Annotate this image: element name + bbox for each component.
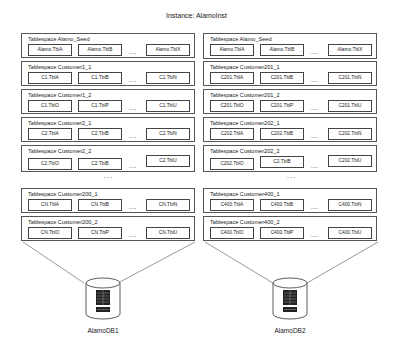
- database-label-db1: AlamoDB1: [73, 327, 133, 334]
- connector-line: [205, 242, 273, 283]
- database-cylinder-icon: [273, 278, 307, 319]
- connector-line: [23, 242, 84, 283]
- diagram-connectors: [0, 0, 393, 350]
- connector-line: [118, 242, 195, 283]
- database-cylinder-icon: [86, 278, 120, 319]
- database-label-db2: AlamoDB2: [260, 327, 320, 334]
- connector-line: [307, 242, 378, 283]
